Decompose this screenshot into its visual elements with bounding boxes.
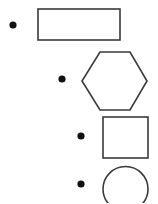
shapes-svg — [0, 0, 158, 203]
bullet-dot-4 — [77, 180, 84, 187]
bullet-dot-2 — [58, 75, 65, 82]
bullet-dot-3 — [77, 132, 84, 139]
hexagon-shape — [82, 52, 147, 110]
bullet-dot-1 — [9, 21, 16, 28]
diagram-canvas — [0, 0, 158, 203]
rectangle-shape — [38, 9, 120, 40]
circle-shape — [103, 167, 148, 204]
square-shape — [103, 117, 148, 158]
